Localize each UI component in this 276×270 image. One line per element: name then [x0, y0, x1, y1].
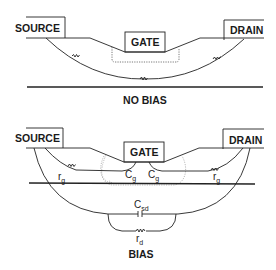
diagram-canvas: SOURCE DRAIN GATE NO BIAS SOURCE	[0, 0, 276, 270]
drain-label-bias: DRAIN	[229, 134, 262, 146]
source-label-bias: SOURCE	[15, 132, 60, 144]
gate-contact: GATE	[125, 32, 165, 52]
resistor-left-icon	[72, 55, 80, 58]
left-gate-path	[45, 148, 136, 171]
panel-no-bias: SOURCE DRAIN GATE NO BIAS	[15, 17, 264, 106]
cg-right-label: Cg	[148, 169, 159, 183]
csd-label: Csd	[134, 199, 149, 212]
gate-label: GATE	[131, 36, 159, 48]
drain-label: DRAIN	[230, 24, 263, 36]
depletion-region	[112, 47, 179, 62]
resistor-right-icon	[213, 57, 221, 60]
cg-left-label: Cg	[125, 169, 136, 183]
rg-right-label: rg	[213, 171, 220, 185]
substrate-line-bias	[29, 183, 255, 184]
depletion-region-bias	[102, 155, 112, 183]
caption-bias: BIAS	[128, 248, 153, 260]
source-contact-bias: SOURCE	[15, 128, 63, 148]
source-label: SOURCE	[15, 22, 60, 34]
gate-contact-bias: GATE	[124, 142, 164, 162]
resistor-center-icon	[140, 77, 148, 80]
resistor-rd-icon	[136, 229, 145, 232]
right-gate-path	[149, 148, 243, 171]
gate-label-bias: GATE	[130, 146, 158, 158]
panel-bias: SOURCE DRAIN GATE rg Cg Cg rg	[15, 128, 264, 260]
resistor-rg-left-icon	[68, 164, 76, 167]
rd-label: rd	[136, 233, 143, 246]
caption-no-bias: NO BIAS	[123, 94, 167, 106]
drain-contact-bias: DRAIN	[223, 129, 264, 149]
drain-contact: DRAIN	[224, 20, 264, 40]
source-contact: SOURCE	[15, 17, 65, 38]
